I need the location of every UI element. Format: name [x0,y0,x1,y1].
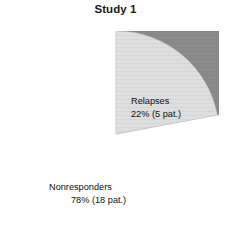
page-title: Study 1 [0,3,231,15]
pie-label-relapses-value: 22% (5 pat.) [131,108,181,121]
pie-label-relapses: Relapses 22% (5 pat.) [131,95,181,121]
pie-chart-figure: Study 1 Relapses 22% (5 pat.) [0,0,231,246]
pie-label-nonresponders-name: Nonresponders [49,181,126,194]
pie-label-nonresponders-value: 78% (18 pat.) [49,194,126,207]
pie-label-nonresponders: Nonresponders 78% (18 pat.) [49,181,126,207]
pie-label-relapses-name: Relapses [131,95,181,108]
pie-chart-canvas: Relapses 22% (5 pat.) Nonresponders 78% … [13,31,219,237]
